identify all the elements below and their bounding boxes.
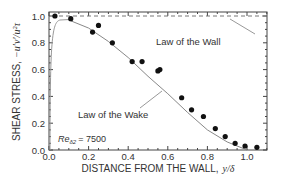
x-tick-label: 1.0 (240, 151, 253, 162)
x-tick-label: 0.8 (201, 151, 214, 162)
y-tick-label: 0.6 (32, 64, 45, 75)
y-tick-label: 0.8 (32, 37, 45, 48)
y-tick-label: 0.0 (32, 145, 45, 156)
data-point (201, 114, 206, 119)
data-point (179, 95, 184, 100)
x-axis-label: DISTANCE FROM THE WALL,y/δ (82, 163, 235, 174)
data-point (139, 59, 144, 64)
data-point (52, 13, 57, 18)
y-tick-labels: 0.00.20.40.60.81.0 (32, 11, 45, 156)
plot-frame (49, 12, 267, 150)
reynolds-annotation: Reδ2= 7500 (58, 134, 106, 145)
data-point (110, 40, 115, 45)
data-point (254, 145, 259, 150)
axis-ticks (49, 12, 267, 150)
wake-leader-line (140, 91, 162, 108)
data-point (242, 143, 247, 148)
data-point (68, 16, 73, 21)
data-point (189, 107, 194, 112)
law-of-wake-label: Law of the Wake (78, 109, 148, 120)
y-axis-label: SHEAR STRESS,−u′v′/u²τ (11, 23, 22, 141)
data-point (223, 134, 228, 139)
data-point (213, 126, 218, 131)
y-tick-label: 1.0 (32, 11, 45, 22)
wall-leader-line (230, 19, 255, 34)
shear-stress-chart: 0.00.20.40.60.81.0 0.00.20.40.60.81.0 La… (0, 0, 281, 187)
data-point (96, 23, 101, 28)
data-point (157, 67, 162, 72)
y-tick-label: 0.2 (32, 118, 45, 129)
x-tick-label: 0.2 (82, 151, 95, 162)
x-tick-labels: 0.00.20.40.60.81.0 (42, 151, 253, 162)
wall-curve-near-wall (50, 20, 70, 151)
x-tick-label: 0.4 (122, 151, 135, 162)
y-tick-label: 0.4 (32, 91, 45, 102)
data-point (233, 141, 238, 146)
law-of-wall-label: Law of the Wall (156, 36, 221, 47)
x-tick-label: 0.6 (161, 151, 174, 162)
data-points (52, 13, 259, 150)
data-point (90, 29, 95, 34)
data-point (130, 59, 135, 64)
